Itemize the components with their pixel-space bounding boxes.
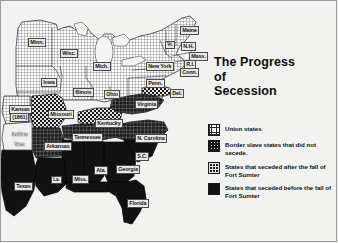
legend-label-union: Union states <box>225 124 262 133</box>
state-label-vermont: Vt. <box>165 41 175 49</box>
state-label-michigan: Mich. <box>93 62 111 71</box>
state-label-tennessee: Tennessee <box>72 133 103 142</box>
state-label-kansas-year: (1861) <box>10 113 29 122</box>
legend-label-border-slave: Border slave states that did not secede. <box>225 140 335 158</box>
legend-panel: The Progress of Secession Union states B… <box>205 0 338 243</box>
map-title-line-1: The Progress <box>214 55 336 70</box>
state-label-texas: Texas <box>14 182 33 191</box>
state-label-maine: Maine <box>180 26 199 35</box>
seceded-before-sumter-swatch <box>208 183 220 195</box>
state-label-georgia: Georgia <box>116 165 140 174</box>
state-label-virginia: Virginia <box>135 100 158 109</box>
legend-item-seceded-after: States that seceded after the fall of Fo… <box>205 162 338 180</box>
legend-item-seceded-before: States that seceded before the fall of F… <box>205 183 338 201</box>
state-label-pennsylvania: Penn. <box>146 79 165 88</box>
secession-map-figure: Minn.Wisc.Mich.IowaIllinoisOhioKansas(18… <box>0 0 338 243</box>
border-slave-states-swatch <box>208 140 220 152</box>
state-label-new-york: New York <box>146 62 174 71</box>
state-label-north-carolina: N. Carolina <box>135 134 167 143</box>
state-label-alabama: Ala. <box>94 166 108 175</box>
legend-label-seceded-before: States that seceded before the fall of F… <box>225 183 335 201</box>
state-label-minnesota: Minn. <box>28 38 46 47</box>
state-label-ohio: Ohio <box>104 90 120 99</box>
map-panel: Minn.Wisc.Mich.IowaIllinoisOhioKansas(18… <box>0 0 205 243</box>
legend-item-border-slave: Border slave states that did not secede. <box>205 140 338 158</box>
state-label-new-hampshire: N.H. <box>181 42 196 51</box>
state-label-kentucky: Kentucky <box>95 119 123 128</box>
state-label-louisiana: La. <box>51 176 62 184</box>
map-title: The Progress of Secession <box>214 55 336 99</box>
union-states-swatch <box>208 124 220 136</box>
state-label-indian-terr-1: Indian <box>11 131 29 138</box>
map-title-line-2: of <box>214 70 336 85</box>
state-label-south-carolina: S.C. <box>135 152 149 161</box>
state-label-indian-terr-2: Terr. <box>13 141 26 148</box>
legend-item-union: Union states <box>205 124 338 136</box>
state-label-connecticut: Conn. <box>180 68 199 77</box>
legend-label-seceded-after: States that seceded after the fall of Fo… <box>225 162 335 180</box>
state-label-iowa: Iowa <box>41 78 57 87</box>
state-label-mississippi: Miss. <box>72 175 89 184</box>
state-label-illinois: Illinois <box>73 88 94 97</box>
seceded-after-sumter-swatch <box>208 162 220 174</box>
state-label-florida: Florida <box>127 199 149 208</box>
state-label-missouri: Missouri <box>48 110 74 119</box>
map-title-line-3: Secession <box>214 84 336 99</box>
state-label-wisconsin: Wisc. <box>60 49 78 58</box>
map-legend: Union states Border slave states that di… <box>205 124 338 205</box>
state-label-arkansas: Arkansas <box>44 142 72 151</box>
state-label-delaware: Del. <box>170 89 184 98</box>
